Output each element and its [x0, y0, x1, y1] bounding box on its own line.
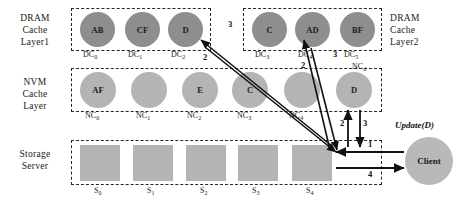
dram2-slot-1: DC4 — [298, 50, 312, 59]
nvm-node-2[interactable]: E — [182, 72, 218, 108]
dram1-node-1[interactable]: CF — [125, 12, 160, 47]
dram1-node-1-label: CF — [137, 25, 148, 35]
dram2-slot-0: DC3 — [255, 50, 269, 59]
layer-label-nvm: NVM Cache Layer — [6, 76, 64, 112]
layer-label-dram1: DRAM Cache Layer1 — [6, 12, 64, 48]
dram1-slot-1: DC1 — [128, 50, 142, 59]
figure-canvas: DRAM Cache Layer1 NVM Cache Layer Storag… — [0, 0, 475, 208]
nvm-node-3[interactable]: C — [232, 72, 268, 108]
storage-block-2[interactable] — [186, 145, 226, 181]
nvm-slot-1: NC1 — [136, 111, 150, 120]
layer-label-nvm-line1: NVM — [6, 76, 64, 88]
layer-label-dram2-line3: Layer2 — [390, 36, 460, 48]
step-label-2-mid: 2 — [301, 60, 305, 70]
nvm-node-3-label: C — [247, 85, 253, 95]
client-node-label: Client — [417, 156, 441, 166]
dram2-node-2-label: BF — [352, 25, 363, 35]
nvm-slot-0: NC0 — [85, 111, 99, 120]
nvm-node-0-label: AF — [92, 85, 103, 95]
layer-label-dram1-line2: Cache — [6, 24, 64, 36]
layer-label-dram2: DRAM Cache Layer2 — [390, 12, 460, 48]
step-label-4: 4 — [368, 169, 372, 179]
nvm-slot-d: NCd — [352, 62, 366, 71]
layer-label-dram1-line1: DRAM — [6, 12, 64, 24]
dram1-node-0-label: AB — [92, 25, 104, 35]
nvm-slot-2: NC2 — [187, 111, 201, 120]
layer-label-dram1-line3: Layer1 — [6, 36, 64, 48]
storage-block-1[interactable] — [133, 145, 173, 181]
step-label-1: 1 — [368, 139, 372, 149]
nvm-node-0[interactable]: AF — [80, 72, 116, 108]
storage-block-3[interactable] — [238, 145, 278, 181]
layer-label-dram2-line1: DRAM — [390, 12, 460, 24]
dram1-node-2[interactable]: D — [168, 12, 203, 47]
dram2-node-1[interactable]: AD — [295, 12, 330, 47]
storage-block-0[interactable] — [80, 145, 120, 181]
step-label-2-left: 2 — [203, 52, 207, 62]
storage-slot-4: S4 — [306, 186, 313, 195]
dram2-node-0-label: C — [266, 25, 272, 35]
storage-slot-1: S1 — [147, 186, 154, 195]
dram2-node-1-label: AD — [306, 25, 318, 35]
layer-label-storage-line2: Server — [6, 160, 64, 172]
update-operation-label: Update(D) — [395, 120, 434, 130]
step-label-2-right: 2 — [340, 118, 344, 128]
client-node[interactable]: Client — [405, 137, 453, 185]
storage-slot-2: S2 — [200, 186, 207, 195]
nvm-node-1[interactable] — [131, 72, 167, 108]
step-label-3-right: 3 — [363, 118, 367, 128]
layer-label-storage: Storage Server — [6, 148, 64, 172]
dram2-node-0[interactable]: C — [252, 12, 287, 47]
nvm-slot-3: NC3 — [237, 111, 251, 120]
nvm-node-4[interactable] — [284, 72, 320, 108]
nvm-node-d[interactable]: D — [336, 72, 372, 108]
storage-block-4[interactable] — [292, 145, 332, 181]
layer-label-nvm-line2: Cache — [6, 88, 64, 100]
storage-slot-3: S3 — [252, 186, 259, 195]
step-label-3-mid: 3 — [333, 49, 337, 59]
dram1-node-0[interactable]: AB — [80, 12, 115, 47]
layer-label-storage-line1: Storage — [6, 148, 64, 160]
storage-slot-0: S0 — [94, 186, 101, 195]
dram2-node-2[interactable]: BF — [340, 12, 375, 47]
dram2-slot-2: DC5 — [344, 50, 358, 59]
nvm-node-d-label: D — [351, 85, 357, 95]
dram1-slot-0: DC0 — [83, 50, 97, 59]
layer-label-nvm-line3: Layer — [6, 100, 64, 112]
dram1-node-2-label: D — [182, 25, 188, 35]
step-label-3-left: 3 — [228, 19, 232, 29]
layer-label-dram2-line2: Cache — [390, 24, 460, 36]
nvm-slot-4: NC4 — [289, 111, 303, 120]
nvm-node-2-label: E — [197, 85, 203, 95]
dram1-slot-2: DC2 — [171, 50, 185, 59]
